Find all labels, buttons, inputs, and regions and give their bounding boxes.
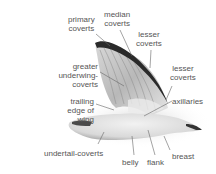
label-lesser-coverts-upper: lesser coverts <box>136 30 162 48</box>
label-breast: breast <box>172 152 194 161</box>
label-line: coverts <box>58 80 98 89</box>
label-trailing-edge-of-wing: trailing edge of wing <box>58 97 94 124</box>
label-line: lesser <box>170 64 196 73</box>
label-line: median <box>104 10 130 19</box>
bird-anatomy-diagram: primary coverts median coverts lesser co… <box>0 0 216 174</box>
label-greater-underwing-coverts: greater underwing- coverts <box>58 62 98 89</box>
label-line: coverts <box>136 39 162 48</box>
label-line: coverts <box>68 24 95 33</box>
label-line: trailing <box>58 97 94 106</box>
label-axillaries: axillaries <box>172 97 203 106</box>
label-undertail-coverts: undertail-coverts <box>44 149 103 158</box>
label-line: lesser <box>136 30 162 39</box>
label-line: edge of <box>58 106 94 115</box>
label-belly: belly <box>122 158 138 167</box>
label-line: greater <box>58 62 98 71</box>
label-line: underwing- <box>58 71 98 80</box>
label-flank: flank <box>147 158 164 167</box>
label-line: coverts <box>104 19 130 28</box>
label-line: coverts <box>170 73 196 82</box>
label-line: wing <box>58 115 94 124</box>
label-primary-coverts: primary coverts <box>68 15 95 33</box>
label-lesser-coverts-right: lesser coverts <box>170 64 196 82</box>
label-median-coverts: median coverts <box>104 10 130 28</box>
label-line: primary <box>68 15 95 24</box>
